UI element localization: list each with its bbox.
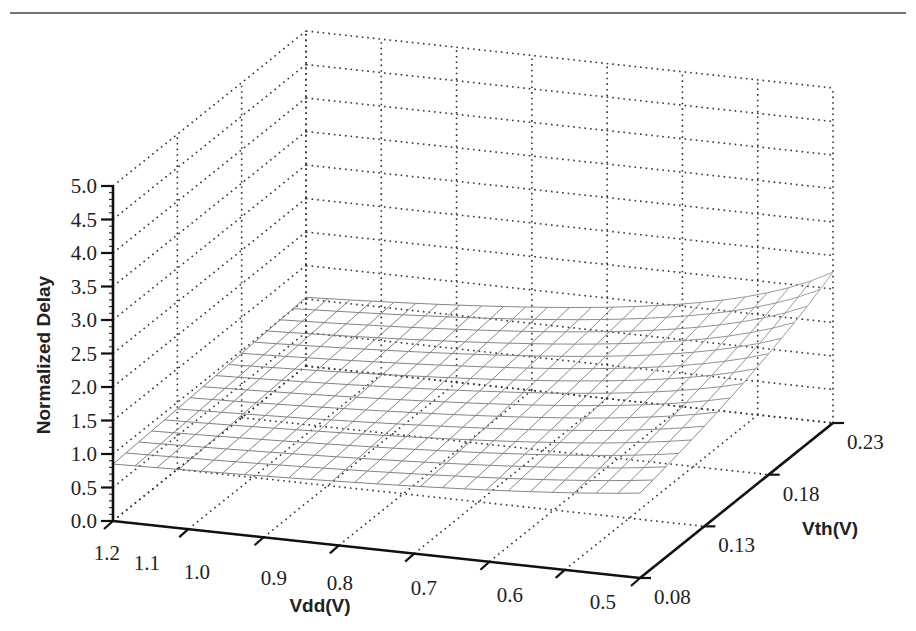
mesh-segment xyxy=(490,465,512,466)
mesh-segment xyxy=(501,380,514,392)
mesh-segment xyxy=(657,441,670,454)
mesh-segment xyxy=(644,467,666,468)
mesh-segment xyxy=(327,444,349,445)
mesh-segment xyxy=(367,471,389,472)
mesh-segment xyxy=(642,404,664,405)
mesh-segment xyxy=(650,342,663,355)
mesh-segment xyxy=(170,446,183,457)
z-tick-label: 2.0 xyxy=(71,375,97,399)
mesh-segment xyxy=(276,332,289,343)
mesh-segment xyxy=(457,390,479,391)
mesh-segment xyxy=(368,314,381,325)
floor-gridline xyxy=(414,399,607,554)
mesh-segment xyxy=(679,440,692,454)
mesh-segment xyxy=(375,411,388,422)
mesh-segment xyxy=(183,434,196,445)
mesh-segment xyxy=(410,412,432,413)
mesh-segment xyxy=(135,455,148,466)
mesh-segment xyxy=(278,404,300,405)
mesh-segment xyxy=(633,380,646,393)
mesh-segment xyxy=(682,426,704,428)
mesh-segment xyxy=(223,462,236,473)
mesh-segment xyxy=(704,412,717,426)
mesh-segment xyxy=(628,343,641,356)
mesh-segment xyxy=(725,358,747,361)
mesh-segment xyxy=(406,425,419,437)
mesh-segment xyxy=(606,344,619,357)
y-tick-label: 0.13 xyxy=(718,533,755,557)
mesh-segment xyxy=(252,415,265,426)
mesh-segment xyxy=(300,406,322,407)
z-tick-label: 4.0 xyxy=(71,241,97,265)
x-tick-label: 0.9 xyxy=(261,566,287,590)
mesh-segment xyxy=(673,403,686,416)
mesh-segment xyxy=(723,297,745,300)
side-wall-gridline xyxy=(113,165,306,320)
mesh-segment xyxy=(372,301,394,302)
mesh-segment xyxy=(432,402,445,414)
mesh-segment xyxy=(333,481,355,482)
mesh-segment xyxy=(289,321,302,332)
mesh-segment xyxy=(483,355,496,367)
mesh-segment xyxy=(340,421,353,432)
mesh-segment xyxy=(326,383,348,384)
mesh-segment xyxy=(478,330,500,331)
mesh-segment xyxy=(500,331,522,332)
mesh-segment xyxy=(651,404,664,417)
x-tick-label: 1.0 xyxy=(184,560,210,584)
mesh-segment xyxy=(455,476,477,477)
mesh-segment xyxy=(383,374,405,375)
mesh-segment xyxy=(208,423,230,425)
mesh-segment xyxy=(264,344,277,355)
mesh-segment xyxy=(579,307,592,319)
mesh-segment xyxy=(651,416,673,417)
mesh-segment xyxy=(520,405,533,417)
mesh-segment xyxy=(672,352,694,354)
mesh-segment xyxy=(635,306,657,307)
mesh-segment xyxy=(395,363,417,364)
mesh-segment xyxy=(567,381,580,393)
mesh-segment xyxy=(373,362,395,363)
mesh-segment xyxy=(514,380,536,381)
mesh-segment xyxy=(549,356,562,368)
mesh-segment xyxy=(230,414,243,425)
mesh-segment xyxy=(535,307,548,319)
mesh-segment xyxy=(289,478,311,480)
mesh-segment xyxy=(345,470,367,471)
mesh-segment xyxy=(359,301,372,312)
mesh-segment xyxy=(261,428,274,439)
mesh-segment xyxy=(199,399,212,410)
mesh-segment xyxy=(553,332,566,344)
mesh-segment xyxy=(309,418,331,419)
mesh-segment xyxy=(353,421,375,422)
mesh-segment xyxy=(489,392,502,404)
mesh-segment xyxy=(461,366,483,367)
mesh-segment xyxy=(703,361,725,363)
mesh-segment xyxy=(525,454,547,455)
mesh-segment xyxy=(280,309,293,320)
mesh-segment xyxy=(377,472,390,483)
mesh-segment xyxy=(221,412,243,414)
mesh-segment xyxy=(389,461,402,472)
mesh-segment xyxy=(659,354,672,367)
mesh-segment xyxy=(456,318,469,330)
mesh-segment xyxy=(591,443,604,455)
mesh-segment xyxy=(258,463,280,465)
mesh-segment xyxy=(491,307,504,319)
mesh-segment xyxy=(249,451,271,453)
back-wall-gridline xyxy=(306,165,833,222)
mesh-segment xyxy=(498,404,511,416)
mesh-segment xyxy=(314,455,336,456)
mesh-segment xyxy=(481,453,503,454)
mesh-segment xyxy=(508,479,521,491)
mesh-segment xyxy=(613,443,626,456)
mesh-segment xyxy=(688,302,701,315)
side-wall-gridline xyxy=(113,199,306,354)
mesh-segment xyxy=(157,468,179,470)
x-tick xyxy=(104,521,113,529)
mesh-segment xyxy=(587,468,600,480)
mesh-segment xyxy=(428,426,441,438)
mesh-segment xyxy=(489,404,511,405)
mesh-segment xyxy=(580,369,593,381)
mesh-segment xyxy=(326,372,339,383)
